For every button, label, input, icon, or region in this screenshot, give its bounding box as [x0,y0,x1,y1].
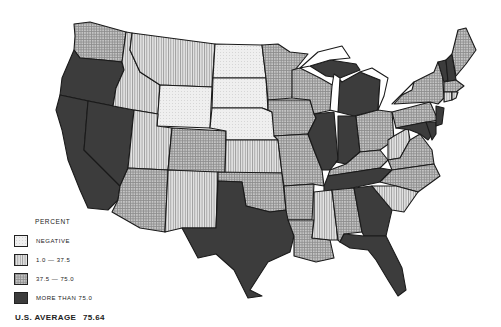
state-wy [157,85,212,128]
us-average: U.S. AVERAGE 75.64 [15,313,109,322]
state-wa [74,22,126,62]
state-sd [212,78,268,110]
legend-label: MORE THAN 75.0 [36,295,92,301]
state-ny [394,62,444,104]
low-swatch-icon [14,254,28,266]
state-ar [284,184,314,220]
state-co [168,128,226,173]
us-average-label: U.S. AVERAGE [15,313,76,322]
mid-swatch-icon [14,273,28,285]
state-nj [436,106,444,126]
state-nd [213,44,266,78]
us-average-value: 75.64 [83,313,105,322]
legend-label: 37.5 — 75.0 [36,276,74,282]
state-nm [165,170,218,232]
negative-swatch-icon [14,235,28,247]
state-fl [340,234,406,296]
state-mi [334,72,380,116]
state-ri [452,92,458,100]
legend-item-low: 1.0 — 37.5 [14,250,92,269]
legend-label: 1.0 — 37.5 [36,257,70,263]
legend-label: NEGATIVE [36,238,70,244]
state-ct [444,92,452,102]
high-swatch-icon [14,292,28,304]
state-ma [444,80,464,92]
legend-item-high: MORE THAN 75.0 [14,288,92,307]
state-me [452,28,476,76]
legend-title: PERCENT [35,218,92,225]
state-ks [225,140,282,173]
legend-item-mid: 37.5 — 75.0 [14,269,92,288]
legend-item-negative: NEGATIVE [14,231,92,250]
state-ia [268,100,316,136]
map-legend: PERCENT NEGATIVE 1.0 — 37.5 37.5 — 75.0 … [14,218,92,307]
